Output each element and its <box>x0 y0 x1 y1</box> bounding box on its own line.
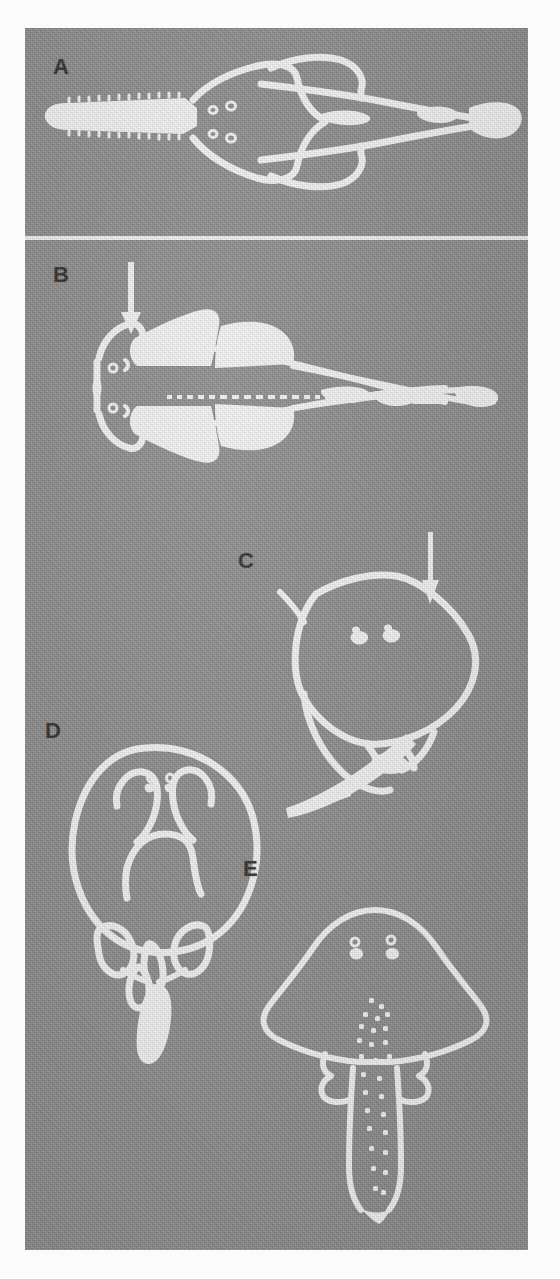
electric-organ-right <box>173 770 212 840</box>
median-thorn-rows <box>357 998 392 1195</box>
eye-left-icon <box>209 107 217 114</box>
eye-spiracle-group <box>351 625 401 645</box>
eye-spiracle-group <box>209 102 236 142</box>
tail-outline-left <box>349 1068 361 1210</box>
spiracle-right-icon <box>386 948 399 959</box>
panel-a-label: A <box>53 56 69 78</box>
disc-outline <box>295 575 475 744</box>
eye-left-icon <box>109 364 117 372</box>
toothed-rostrum-icon <box>45 93 197 139</box>
mouth-arch <box>127 834 201 894</box>
spiracle-right-icon <box>383 629 401 642</box>
panel-a: A <box>25 28 528 236</box>
spiracle-left-icon <box>125 360 128 370</box>
eye-left-icon <box>351 938 359 946</box>
spiracle-left-icon <box>351 631 369 644</box>
tail-lower-margin <box>261 124 485 160</box>
tail-outline-right <box>389 1068 401 1210</box>
spiracle-left-icon <box>145 783 155 792</box>
caudal-fin <box>455 386 498 407</box>
spiracle-right-icon <box>125 406 128 416</box>
panel-c-label: C <box>238 550 254 572</box>
snout-notch <box>280 592 304 622</box>
spiracle-left-icon <box>350 948 363 959</box>
disc-outline <box>264 910 487 1062</box>
tail <box>137 984 172 1064</box>
panel-b-drawing <box>25 240 528 530</box>
photographic-plate: A <box>25 28 528 1250</box>
third-fin-mark <box>411 392 443 404</box>
eye-right-icon <box>209 131 217 138</box>
second-dorsal-fin <box>417 106 458 123</box>
panel-b-label: B <box>53 264 69 286</box>
panel-e-label: E <box>243 858 258 880</box>
eye-right-icon <box>387 936 395 944</box>
pelvic-fin-left <box>97 926 134 975</box>
caudal-fin <box>469 102 522 138</box>
eye-right-icon <box>109 404 117 412</box>
first-dorsal-fin <box>321 110 370 125</box>
panel-d-label: D <box>45 720 61 742</box>
panel-a-drawing <box>25 28 528 236</box>
panel-divider-rule <box>25 236 528 240</box>
mouth-arch-lower <box>126 868 128 898</box>
eye-right-icon <box>167 774 174 782</box>
spiracle-left-icon <box>227 102 236 110</box>
panel-e-drawing <box>225 828 528 1238</box>
spiracle-right-icon <box>165 783 175 792</box>
eye-spiracle-group <box>350 936 399 959</box>
panel-b: B <box>25 240 528 530</box>
panel-e: E <box>225 828 528 1238</box>
spiracle-right-icon <box>227 134 236 142</box>
figure-plate: A <box>0 0 560 1279</box>
